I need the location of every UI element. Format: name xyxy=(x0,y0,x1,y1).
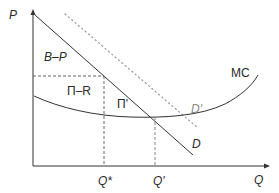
region-label-middle: Π–R xyxy=(67,85,91,97)
mc-curve-label: MC xyxy=(231,67,250,79)
region-label-triangle: Π' xyxy=(117,98,128,110)
q-prime-label: Q' xyxy=(153,175,165,187)
diagram-canvas xyxy=(0,0,279,193)
demand-shifted-curve xyxy=(65,14,198,128)
y-axis xyxy=(31,9,36,166)
y-axis-label: P xyxy=(9,9,17,21)
x-axis xyxy=(33,164,270,169)
x-axis-label: Q xyxy=(254,174,263,186)
demand-label: D xyxy=(192,138,201,150)
demand-shifted-label: D' xyxy=(191,103,202,115)
region-label-upper: B–P xyxy=(44,51,67,63)
x-axis-arrow-icon xyxy=(264,164,270,169)
demand-curve xyxy=(35,15,193,155)
y-axis-arrow-icon xyxy=(31,9,36,15)
q-star-label: Q* xyxy=(98,175,112,187)
